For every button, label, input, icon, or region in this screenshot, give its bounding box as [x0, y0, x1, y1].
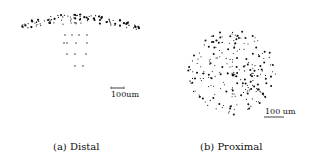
scale-bar-label-distal: 100um [111, 90, 139, 99]
caption-proximal: (b) Proximal [200, 141, 262, 152]
scale-bar-proximal [155, 0, 309, 161]
panel-distal: 100um (a) Distal [0, 0, 155, 161]
caption-distal: (a) Distal [53, 141, 99, 152]
panel-proximal: 100 um (b) Proximal [155, 0, 309, 161]
scale-bar-distal [0, 0, 155, 161]
scale-bar-label-proximal: 100 um [265, 107, 296, 116]
